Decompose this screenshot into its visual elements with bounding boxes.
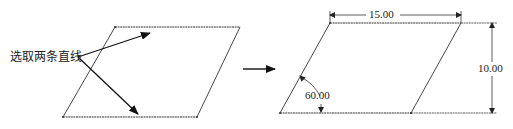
diagram-canvas [0,0,513,129]
selection-arrows [78,33,150,114]
angle-dimension-value: 60.00 [304,90,331,101]
instruction-label: 选取两条直线 [10,51,82,63]
right-right-edge [411,23,461,113]
left-right-edge [197,27,240,117]
left-left-edge [63,27,115,117]
arrow-to-bottom-edge-icon [78,57,138,114]
arrow-to-top-edge-icon [78,33,150,57]
vertical-dimension-value: 10.00 [477,63,504,74]
left-parallelogram [62,26,240,118]
horizontal-dimension [330,11,461,23]
horizontal-dimension-value: 15.00 [368,9,395,20]
